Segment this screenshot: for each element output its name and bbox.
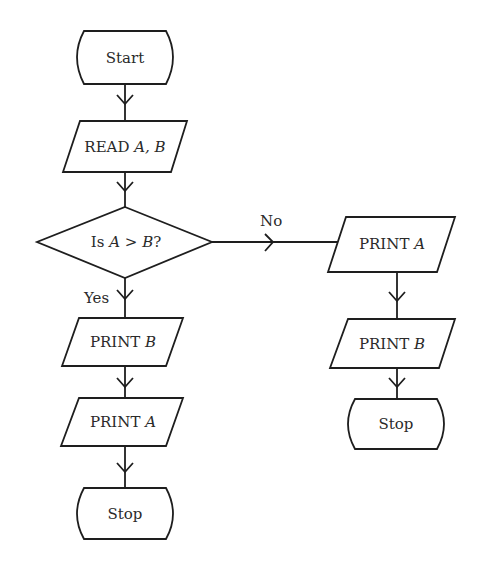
read-input-node: READ A, B (63, 121, 187, 172)
arrow-read-to-decision (117, 172, 133, 207)
start-terminal: Start (77, 31, 173, 84)
arrow-print-a-to-print-b-right (389, 272, 405, 319)
arrow-no-branch: No (212, 212, 339, 251)
flowchart-canvas: Start READ A, B Is A > B? No Yes PRINT B (0, 0, 478, 579)
stop-right-label: Stop (379, 415, 414, 433)
stop-left-label: Stop (108, 505, 143, 523)
arrow-print-a-to-stop-left (117, 446, 133, 488)
arrow-yes-branch: Yes (83, 278, 133, 318)
print-a-left-label: PRINT A (90, 413, 156, 431)
print-a-right-node: PRINT A (328, 217, 455, 272)
yes-label: Yes (83, 289, 109, 307)
no-label: No (260, 212, 282, 230)
arrow-print-b-to-print-a-left (117, 366, 133, 398)
stop-right-terminal: Stop (348, 399, 444, 449)
start-label: Start (106, 49, 144, 67)
decision-label: Is A > B? (91, 233, 161, 251)
decision-diamond: Is A > B? (37, 207, 212, 278)
print-b-right-label: PRINT B (359, 335, 425, 353)
arrow-print-b-to-stop-right (389, 368, 405, 399)
print-b-left-label: PRINT B (90, 333, 156, 351)
read-label: READ A, B (84, 138, 165, 156)
print-a-left-node: PRINT A (61, 398, 183, 446)
arrow-start-to-read (117, 84, 133, 121)
print-b-right-node: PRINT B (330, 319, 455, 368)
print-b-left-node: PRINT B (62, 318, 183, 366)
print-a-right-label: PRINT A (359, 235, 425, 253)
stop-left-terminal: Stop (77, 488, 173, 539)
